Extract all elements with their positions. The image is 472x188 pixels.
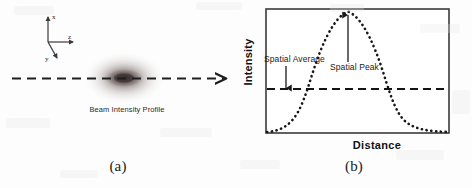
figure-beam-intensity: x z y Beam Intensity Profile (a) [0,0,472,188]
beam-intensity-profile-label: Beam Intensity Profile [62,105,192,114]
y-axis-title: Intensity [242,32,254,92]
panel-caption-a: (a) [0,158,236,175]
annotation-spatial-peak: Spatial Peak [330,62,379,72]
coordinate-axes: x z y [45,13,73,63]
x-axis-title: Distance [302,139,452,151]
axis-y-label: y [45,55,49,63]
panel-a: x z y Beam Intensity Profile (a) [0,0,236,188]
axis-x-label: x [52,13,56,21]
panel-b: Intensity Distance Spatial Average Spati… [236,0,472,188]
axis-y-line [48,42,57,58]
annotation-spatial-average: Spatial Average [264,54,325,64]
panel-caption-b: (b) [236,158,472,175]
axis-z-label: z [68,33,71,41]
